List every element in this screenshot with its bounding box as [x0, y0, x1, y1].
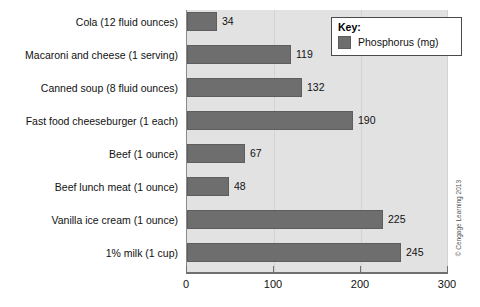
category-label: Cola (12 fluid ounces) [0, 16, 178, 28]
legend-title: Key: [338, 21, 455, 34]
copyright-credit: © Cengage Learning 2013 [455, 180, 463, 256]
bar-value-label: 225 [388, 213, 406, 225]
bar [187, 177, 229, 196]
bar [187, 78, 302, 97]
category-label: Vanilla ice cream (1 ounce) [0, 214, 178, 226]
bar-value-label: 132 [307, 81, 325, 93]
phosphorus-bar-chart: Cola (12 fluid ounces) Macaroni and chee… [0, 0, 480, 307]
chart-legend: Key: Phosphorus (mg) [331, 17, 462, 56]
legend-entry-label: Phosphorus (mg) [358, 36, 439, 49]
x-tick-300 [447, 266, 448, 273]
category-label: Beef lunch meat (1 ounce) [0, 181, 178, 193]
x-tick-label: 0 [183, 278, 189, 291]
category-label: 1% milk (1 cup) [0, 247, 178, 259]
x-tick-100 [273, 266, 274, 273]
category-label: Beef (1 ounce) [0, 148, 178, 160]
x-tick-0 [186, 266, 187, 273]
bar [187, 210, 383, 229]
x-tick-label: 300 [438, 278, 456, 291]
bar-value-label: 245 [406, 246, 424, 258]
x-tick-label: 100 [264, 278, 282, 291]
bar-value-label: 190 [358, 114, 376, 126]
category-label: Macaroni and cheese (1 serving) [0, 49, 178, 61]
bar [187, 243, 401, 262]
category-axis-labels: Cola (12 fluid ounces) Macaroni and chee… [0, 10, 182, 272]
category-label: Canned soup (8 fluid ounces) [0, 82, 178, 94]
legend-entry: Phosphorus (mg) [338, 36, 455, 49]
bar [187, 45, 291, 64]
bar [187, 111, 353, 130]
category-label: Fast food cheeseburger (1 each) [0, 115, 178, 127]
x-tick-200 [360, 266, 361, 273]
bar-value-label: 48 [234, 180, 246, 192]
bar-value-label: 119 [296, 48, 313, 60]
bar-value-label: 34 [222, 15, 234, 27]
legend-swatch-icon [338, 36, 351, 49]
bar-value-label: 67 [250, 147, 262, 159]
bar [187, 12, 217, 31]
x-axis-line [186, 272, 448, 274]
x-tick-label: 200 [351, 278, 369, 291]
bar [187, 144, 245, 163]
